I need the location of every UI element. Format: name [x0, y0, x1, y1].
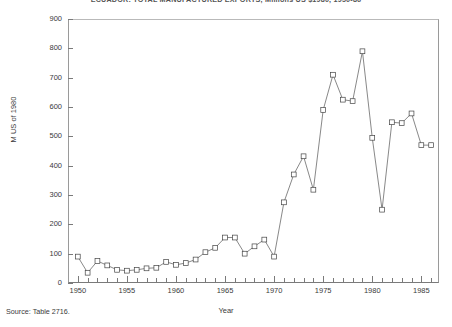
data-point-marker [85, 270, 90, 275]
data-point-marker [321, 108, 326, 113]
data-point-marker [380, 207, 385, 212]
data-point-marker [252, 244, 257, 249]
data-point-marker [144, 266, 149, 271]
data-point-marker [134, 267, 139, 272]
data-point-marker [409, 111, 414, 116]
data-point-marker [232, 235, 237, 240]
data-point-marker [389, 120, 394, 125]
data-point-marker [399, 121, 404, 126]
data-point-marker [183, 261, 188, 266]
data-point-marker [340, 97, 345, 102]
data-point-marker [154, 265, 159, 270]
data-point-marker [223, 235, 228, 240]
data-point-marker [282, 200, 287, 205]
data-point-marker [193, 257, 198, 262]
data-point-marker [291, 172, 296, 177]
data-point-marker [360, 49, 365, 54]
data-point-marker [95, 259, 100, 264]
data-point-marker [124, 268, 129, 273]
data-point-marker [174, 262, 179, 267]
data-point-marker [164, 259, 169, 264]
data-point-marker [105, 263, 110, 268]
chart-page: ECUADOR: TOTAL MANUFACTURED EXPORTS, Mil… [0, 0, 452, 327]
data-point-marker [429, 143, 434, 148]
data-point-marker [75, 254, 80, 259]
data-point-marker [242, 251, 247, 256]
data-markers [75, 49, 433, 275]
data-point-marker [262, 237, 267, 242]
data-point-marker [115, 267, 120, 272]
data-point-marker [301, 154, 306, 159]
data-series-layer [0, 0, 452, 327]
data-point-marker [272, 254, 277, 259]
data-point-marker [213, 245, 218, 250]
data-point-marker [350, 99, 355, 104]
data-point-marker [370, 135, 375, 140]
data-point-marker [203, 250, 208, 255]
source-note: Source: Table 2716. [6, 307, 70, 316]
data-line [78, 51, 431, 272]
data-point-marker [311, 187, 316, 192]
data-point-marker [419, 143, 424, 148]
data-point-marker [331, 72, 336, 77]
